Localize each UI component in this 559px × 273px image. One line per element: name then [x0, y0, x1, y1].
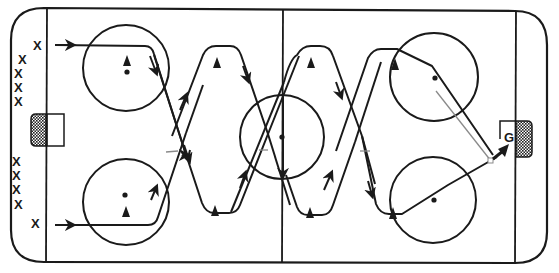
left-bottom-faceoff-circle — [83, 159, 169, 245]
right-goal-net — [516, 121, 532, 157]
cone-icon — [122, 206, 130, 217]
puck-icon — [488, 158, 493, 163]
pass-line — [436, 91, 491, 161]
left-goal-crease — [47, 114, 64, 146]
player-x: X — [18, 52, 27, 67]
pass-line — [166, 151, 178, 152]
player-x: X — [14, 197, 23, 212]
hockey-rink-diagram: G X X X X X X X X X X — [0, 0, 559, 273]
pass-lines — [166, 91, 493, 163]
cone-icon — [213, 57, 221, 68]
player-x: X — [12, 182, 21, 197]
left-top-faceoff-circle — [83, 25, 169, 111]
skate-path-top — [55, 45, 493, 212]
cone-icon — [307, 57, 315, 68]
left-goal-net — [31, 114, 46, 146]
players-left-bottom: X X X X X — [12, 154, 40, 231]
player-x: X — [33, 38, 42, 53]
cone-icon — [306, 207, 314, 218]
player-x: X — [14, 66, 23, 81]
player-x: X — [31, 216, 40, 231]
player-x: X — [12, 168, 21, 183]
player-x: X — [12, 154, 21, 169]
goalie-label: G — [504, 130, 514, 145]
left-goal — [31, 114, 64, 146]
shot-arrow — [493, 144, 509, 159]
player-x: X — [14, 80, 23, 95]
player-x: X — [14, 94, 23, 109]
cone-icon — [211, 205, 219, 216]
cone-icon — [123, 55, 131, 66]
players-left-top: X X X X X — [14, 38, 42, 109]
skate-path-bottom — [55, 55, 497, 225]
